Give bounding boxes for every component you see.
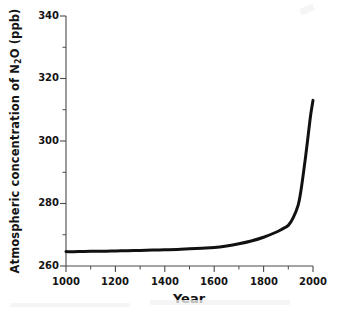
scan-artifact-bottom-left [10, 303, 130, 307]
axis-spines [66, 16, 313, 266]
chart-figure: Atmospheric concentration of N2O (ppb) 3… [0, 0, 337, 322]
plot-area [0, 0, 337, 322]
data-line-n2o [66, 100, 313, 251]
scan-artifact-bottom [150, 300, 290, 305]
